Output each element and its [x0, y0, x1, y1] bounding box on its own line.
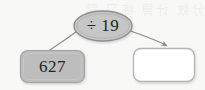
- function-machine-diagram: 分数 计算 练习 题 ÷ 19 627: [0, 0, 205, 90]
- diagram-canvas: [0, 0, 205, 90]
- input-box[interactable]: [21, 51, 85, 83]
- operator-ellipse[interactable]: [74, 11, 132, 41]
- connector-operator-to-output: [131, 31, 167, 46]
- output-box[interactable]: [134, 49, 195, 82]
- connector-input-to-operator: [50, 32, 77, 51]
